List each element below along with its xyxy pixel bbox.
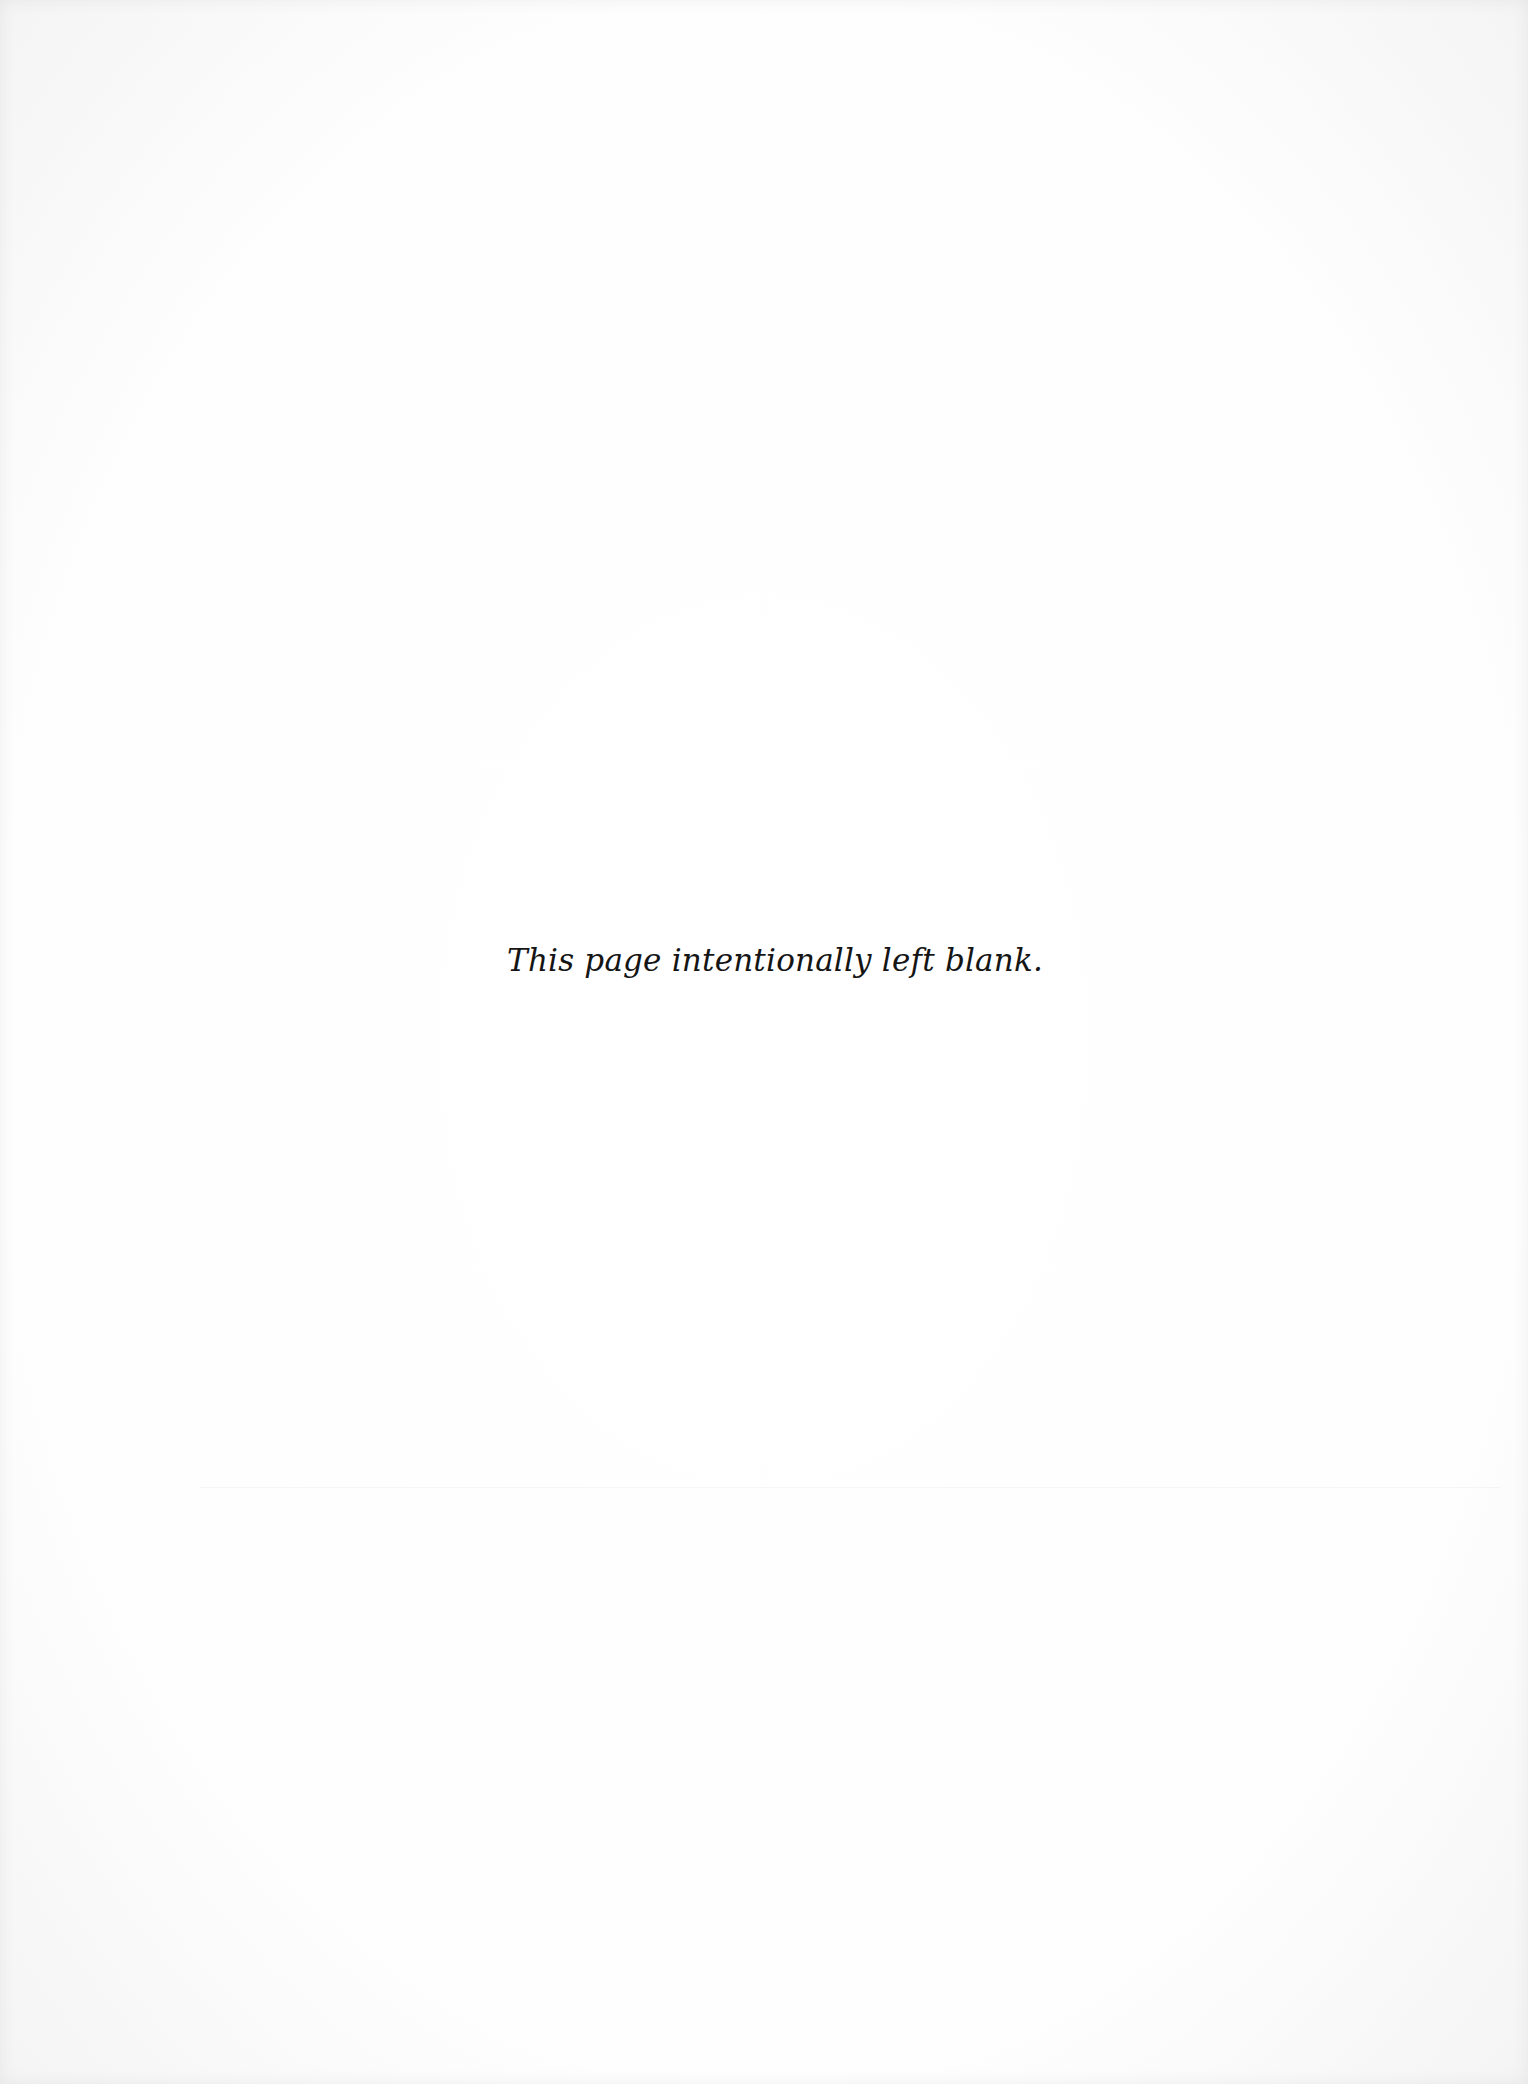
scan-artifact-line [200,1487,1500,1488]
document-page: This page intentionally left blank. [0,0,1528,2084]
blank-page-notice: This page intentionally left blank. [0,938,1528,982]
